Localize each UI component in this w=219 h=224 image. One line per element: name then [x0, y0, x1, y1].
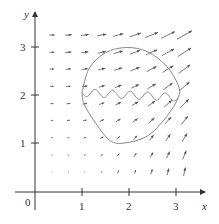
field-arrow: [81, 33, 89, 36]
field-arrow: [131, 67, 140, 71]
field-arrow: [115, 85, 122, 88]
wavy-path: [82, 89, 178, 101]
field-arrow: [162, 49, 174, 56]
field-arrow: [134, 153, 137, 157]
field-arrow: [161, 32, 175, 39]
field-arrow: [151, 169, 153, 174]
y-tick-label: 1: [20, 137, 26, 149]
field-arrow: [66, 68, 71, 70]
field-arrow: [133, 119, 138, 123]
field-arrow: [117, 154, 119, 157]
field-arrow: [83, 137, 86, 138]
field-arrow: [166, 152, 169, 159]
field-arrow: [132, 102, 138, 106]
field-arrow: [116, 136, 120, 139]
field-arrow: [83, 120, 87, 121]
x-tick-label: 3: [173, 200, 179, 212]
y-tick-label: 2: [20, 89, 26, 101]
field-arrow: [98, 68, 105, 71]
closed-curve: [82, 47, 180, 143]
origin-label: 0: [25, 196, 31, 208]
field-arrow: [49, 34, 54, 36]
y-axis-label: y: [23, 8, 29, 20]
plot-canvas: 123123 x y 0: [0, 0, 219, 224]
field-arrow: [166, 134, 171, 141]
field-arrow: [179, 65, 191, 74]
field-arrow: [67, 120, 70, 121]
field-arrow: [180, 99, 188, 108]
field-arrow: [145, 32, 158, 37]
field-arrow: [114, 50, 123, 53]
field-arrow: [99, 85, 105, 87]
field-arrow: [67, 103, 71, 105]
field-arrow: [182, 133, 187, 142]
field-arrow: [133, 136, 137, 140]
x-axis-label: x: [201, 200, 207, 212]
field-arrow: [150, 152, 153, 157]
field-arrow: [84, 171, 85, 172]
field-arrow: [147, 66, 157, 71]
vector-field-figure: 123123 x y 0: [0, 0, 219, 224]
field-arrow: [101, 154, 103, 156]
field-arrow: [101, 171, 102, 173]
field-arrow: [163, 66, 174, 73]
field-arrow: [181, 116, 188, 125]
field-arrow: [99, 103, 104, 105]
field-arrow: [177, 31, 192, 40]
field-arrow: [65, 51, 71, 53]
field-arrow: [149, 118, 155, 123]
x-tick-label: 2: [126, 200, 132, 212]
field-arrow: [66, 85, 70, 87]
field-arrow: [148, 101, 155, 106]
field-arrow: [115, 102, 121, 105]
field-arrow: [81, 51, 88, 54]
field-arrow: [65, 34, 72, 37]
field-arrow: [84, 155, 86, 156]
field-arrow: [82, 68, 88, 70]
field-arrow: [49, 51, 54, 53]
x-tick-label: 1: [79, 200, 85, 212]
field-arrow: [163, 83, 172, 90]
field-arrow: [131, 84, 139, 88]
field-arrow: [97, 33, 106, 36]
field-arrow: [164, 100, 172, 107]
field-arrow: [50, 68, 54, 70]
field-arrow: [118, 170, 119, 173]
field-arrow: [149, 135, 153, 140]
field-arrow: [167, 168, 170, 175]
field-arrow: [179, 82, 189, 91]
field-arrow: [113, 33, 123, 36]
field-arrow: [183, 151, 187, 160]
field-arrow: [100, 137, 103, 139]
field-arrow: [183, 168, 186, 177]
field-arrow: [50, 103, 53, 104]
field-arrow: [134, 170, 136, 174]
y-tick-label: 3: [20, 41, 26, 53]
field-arrow: [114, 67, 122, 70]
field-arrow: [129, 33, 140, 37]
field-arrow: [100, 120, 104, 122]
field-arrow: [147, 84, 156, 89]
field-arrow: [116, 119, 121, 122]
field-arrow: [50, 86, 54, 87]
field-arrow: [178, 48, 191, 57]
vector-field-arrows: [49, 31, 192, 176]
field-arrow: [130, 50, 140, 54]
